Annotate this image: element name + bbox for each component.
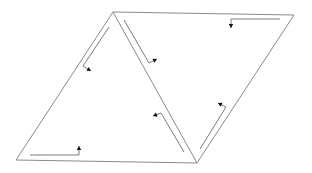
arrow-left-edge-icon [83,27,109,71]
arrow-bottom-edge-icon [30,146,81,155]
edge-left [16,12,113,160]
arrow-top-edge-icon [229,19,280,28]
edge-top [113,12,294,15]
arrow-right-edge-icon [200,103,226,149]
edge-diagonal [113,12,197,163]
edge-bottom [16,160,197,163]
parallelogram-diagram [0,0,312,173]
edge-right [197,15,294,163]
edges-group [16,12,294,163]
